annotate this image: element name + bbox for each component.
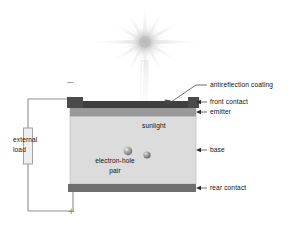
pointer-arrows bbox=[196, 100, 207, 191]
arrow-pointer-icon bbox=[196, 148, 201, 153]
label-electron-hole-pair-line1: electron-hole bbox=[86, 157, 144, 165]
solar-cell-stack bbox=[67, 97, 199, 192]
label-front-contact: front contact bbox=[210, 98, 248, 106]
terminal-positive-sign: + bbox=[68, 206, 74, 217]
label-electron-hole-pair-line2: pair bbox=[86, 167, 144, 175]
diagram-canvas: antireflection coating front contact emi… bbox=[0, 0, 303, 229]
label-external-load-line1: external bbox=[13, 136, 37, 144]
arrow-pointer-icon bbox=[196, 186, 201, 191]
external-circuit-wire bbox=[28, 98, 73, 211]
label-sunlight: sunlight bbox=[142, 122, 166, 130]
label-antireflection-coating: antireflection coating bbox=[210, 81, 273, 89]
rear-contact-layer bbox=[68, 184, 196, 192]
label-rear-contact: rear contact bbox=[210, 184, 246, 192]
solar-cell-diagram-svg bbox=[0, 0, 303, 229]
electron-particle-icon bbox=[124, 147, 133, 156]
label-external-load-line2: load bbox=[13, 146, 26, 154]
arrow-pointer-icon bbox=[196, 110, 201, 115]
emitter-layer bbox=[70, 108, 196, 116]
label-emitter: emitter bbox=[210, 108, 231, 116]
front-contact-pad-left bbox=[67, 97, 83, 108]
hole-particle-icon bbox=[143, 151, 150, 158]
front-contact-layer bbox=[70, 101, 196, 108]
terminal-negative-sign: – bbox=[67, 76, 73, 87]
label-base: base bbox=[210, 146, 225, 154]
